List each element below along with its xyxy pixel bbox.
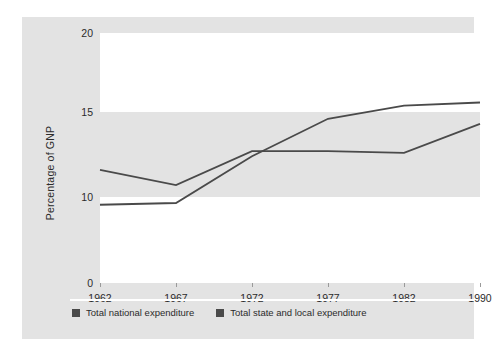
series-line — [100, 103, 480, 205]
legend-item: Total state and local expenditure — [216, 307, 366, 318]
x-tick-label: 1977 — [316, 292, 339, 304]
chart-figure: Percentage of GNP 2015100 19621967197219… — [0, 0, 494, 354]
x-tick-mark — [480, 283, 481, 287]
y-axis-title: Percentage of GNP — [44, 83, 56, 263]
legend-label: Total national expenditure — [86, 307, 194, 318]
x-tick-label: 1972 — [240, 292, 263, 304]
x-tick-mark — [176, 283, 177, 287]
series-line — [100, 124, 480, 185]
legend-divider — [70, 299, 474, 301]
x-tick-label: 1962 — [88, 292, 111, 304]
x-tick-mark — [252, 283, 253, 287]
legend-swatch-icon — [216, 309, 224, 317]
x-tick-label: 1982 — [392, 292, 415, 304]
x-tick-mark — [404, 283, 405, 287]
legend-label: Total state and local expenditure — [230, 307, 366, 318]
legend-swatch-icon — [72, 309, 80, 317]
chart-legend: Total national expenditureTotal state an… — [72, 307, 367, 318]
plot-area: 2015100 196219671972197719821990 — [100, 33, 480, 283]
legend-item: Total national expenditure — [72, 307, 194, 318]
y-tick-label: 15 — [81, 106, 93, 118]
y-tick-label: 0 — [87, 277, 93, 289]
y-tick-label: 20 — [81, 27, 93, 39]
x-tick-label: 1990 — [468, 292, 491, 304]
data-lines — [100, 33, 480, 283]
x-tick-mark — [328, 283, 329, 287]
chart-panel: Percentage of GNP 2015100 19621967197219… — [22, 17, 474, 339]
y-tick-label: 10 — [81, 191, 93, 203]
x-tick-label: 1967 — [164, 292, 187, 304]
x-tick-mark — [100, 283, 101, 287]
